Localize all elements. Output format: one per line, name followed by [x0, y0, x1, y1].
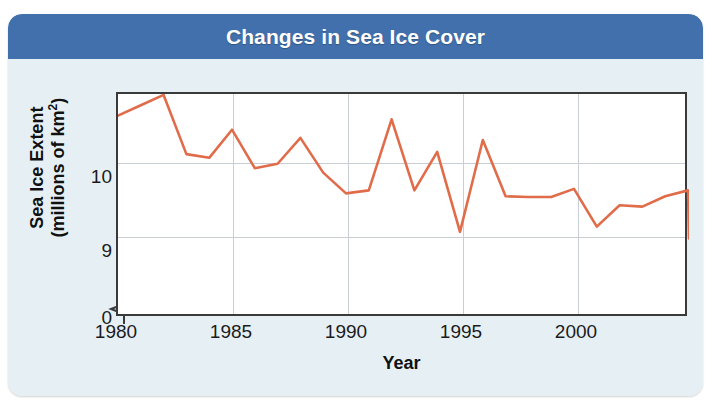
x-tick-1980: 1980 [76, 321, 156, 343]
chart-title-bar: Changes in Sea Ice Cover [8, 14, 703, 59]
plot-area [116, 92, 687, 316]
x-tick-1995: 1995 [421, 321, 501, 343]
y-tick-10: 10 [72, 166, 112, 188]
x-axis-label: Year [116, 353, 687, 374]
sea-ice-extent-line [118, 94, 689, 318]
x-tick-2000: 2000 [536, 321, 616, 343]
chart-figure: Changes in Sea Ice Cover Sea Ice Extent … [8, 14, 703, 396]
chart-canvas: Sea Ice Extent (millions of km2) 10 9 0 … [8, 59, 703, 396]
page-title: Changes in Sea Ice Cover [226, 25, 485, 49]
x-axis-ticks: 1980 1985 1990 1995 2000 [116, 321, 687, 349]
y-tick-9: 9 [72, 240, 112, 262]
y-axis-label-line1: Sea Ice Extent [27, 107, 47, 229]
x-tick-1990: 1990 [306, 321, 386, 343]
x-tick-1985: 1985 [191, 321, 271, 343]
y-axis-ticks: 10 9 0 [56, 59, 112, 396]
